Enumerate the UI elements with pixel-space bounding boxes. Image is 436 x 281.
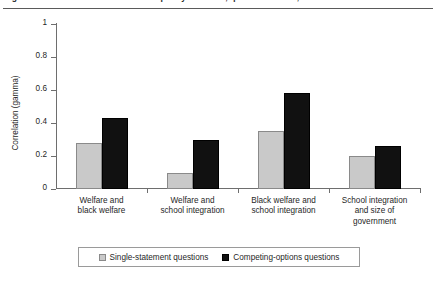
x-category-label-line: government xyxy=(329,217,420,227)
legend-label-competing-options: Competing-options questions xyxy=(233,253,339,262)
caption-divider-rule xyxy=(3,8,433,9)
y-tick-label: 0.2 xyxy=(36,150,47,159)
legend-item-single-statement: Single-statement questions xyxy=(99,253,209,262)
legend-swatch-single-statement-icon xyxy=(99,254,106,261)
y-axis-title-text: Correlation (gamma) xyxy=(11,63,20,163)
chart-legend: Single-statement questions Competing-opt… xyxy=(78,247,360,267)
x-category-label-0: Welfare andblack welfare xyxy=(56,196,147,217)
legend-label-single-statement: Single-statement questions xyxy=(110,253,209,262)
x-category-label-line: Welfare and xyxy=(56,196,147,206)
plot-area xyxy=(56,24,420,189)
x-category-label-line: School integration xyxy=(329,196,420,206)
y-tick-label: 0.4 xyxy=(36,117,47,126)
x-category-label-1: Welfare andschool integration xyxy=(147,196,238,217)
bar-single-statement-1 xyxy=(167,173,193,190)
x-category-label-line: school integration xyxy=(147,206,238,216)
bar-competing-options-0 xyxy=(102,118,128,189)
bar-single-statement-0 xyxy=(76,143,102,189)
bar-competing-options-2 xyxy=(284,93,310,189)
y-tick-label: 1 xyxy=(42,18,47,27)
bar-competing-options-3 xyxy=(375,146,401,189)
bar-single-statement-2 xyxy=(258,131,284,189)
y-tick-label: 0.6 xyxy=(36,84,47,93)
x-category-label-line: Black welfare and xyxy=(238,196,329,206)
y-tick-label: 0 xyxy=(42,183,47,192)
figure-caption-text: Figure 1. Correlations between racial po… xyxy=(4,0,326,2)
y-axis-title: Correlation (gamma) xyxy=(11,0,20,63)
x-tick-3 xyxy=(420,188,421,193)
x-category-label-2: Black welfare andschool integration xyxy=(238,196,329,217)
x-category-label-line: and size of xyxy=(329,206,420,216)
x-category-label-line: school integration xyxy=(238,206,329,216)
legend-item-competing-options: Competing-options questions xyxy=(222,253,339,262)
x-category-label-line: black welfare xyxy=(56,206,147,216)
y-tick-mark xyxy=(51,189,56,190)
x-category-label-3: School integrationand size ofgovernment xyxy=(329,196,420,227)
legend-swatch-competing-options-icon xyxy=(222,254,229,261)
bar-single-statement-3 xyxy=(349,156,375,189)
y-tick-label: 0.8 xyxy=(36,51,47,60)
figure-container: Figure 1. Correlations between racial po… xyxy=(0,0,436,281)
bar-competing-options-1 xyxy=(193,140,219,190)
x-category-label-line: Welfare and xyxy=(147,196,238,206)
